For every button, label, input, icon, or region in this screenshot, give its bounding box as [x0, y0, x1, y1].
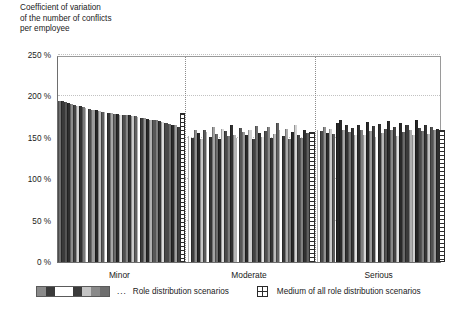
legend-swatch-cell-5 — [82, 287, 91, 296]
chart-legend: ... Role distribution scenarios Medium o… — [36, 286, 421, 297]
y-axis-caption-line-1: Coefficient of variation — [20, 3, 230, 14]
y-tick-label-50: 50 % — [11, 218, 51, 226]
gridline-250 — [58, 54, 440, 55]
y-tick-label-0: 0 % — [11, 259, 51, 267]
group-separator — [185, 57, 186, 262]
legend-swatch-cell-4 — [73, 287, 82, 296]
y-tick-label-250: 250 % — [11, 52, 51, 60]
x-tick-label-moderate: Moderate — [204, 270, 294, 280]
legend-swatch-cell-0 — [37, 287, 46, 296]
legend-dots: ... — [117, 287, 127, 296]
legend-swatch-medium-vline — [262, 287, 263, 296]
bar-series-container — [58, 57, 440, 262]
legend-label-medium: Medium of all role distribution scenario… — [277, 287, 421, 296]
y-axis-caption: Coefficient of variation of the number o… — [20, 3, 230, 35]
legend-swatch-cell-2 — [55, 287, 64, 296]
y-axis-caption-line-3: per employee — [20, 24, 230, 35]
x-tick-label-minor: Minor — [74, 270, 164, 280]
legend-swatch-scenarios — [36, 286, 110, 297]
y-axis-caption-line-2: of the number of conflicts — [20, 14, 230, 25]
plot-area — [57, 56, 441, 263]
y-tick-label-150: 150 % — [11, 135, 51, 143]
y-tick-label-100: 100 % — [11, 176, 51, 184]
legend-swatch-cell-6 — [91, 287, 100, 296]
legend-swatch-cell-7 — [100, 287, 109, 296]
group-separator — [315, 57, 316, 262]
legend-swatch-cell-3 — [64, 287, 73, 296]
chart-figure: Coefficient of variation of the number o… — [0, 0, 455, 321]
x-tick-label-serious: Serious — [334, 270, 424, 280]
bar-medium — [439, 130, 445, 262]
legend-label-scenarios: Role distribution scenarios — [133, 287, 229, 296]
legend-swatch-cell-1 — [46, 287, 55, 296]
y-tick-label-200: 200 % — [11, 93, 51, 101]
legend-swatch-medium — [257, 286, 268, 297]
